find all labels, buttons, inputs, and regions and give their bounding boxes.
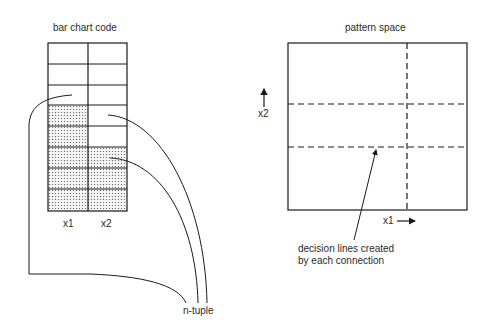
- pattern-space-title: pattern space: [345, 22, 406, 34]
- annotation-line-1: decision lines created: [298, 243, 394, 255]
- diagram-canvas: [0, 0, 494, 335]
- bar-chart-grid: [48, 43, 127, 211]
- annotation-line-2: by each connection: [298, 255, 384, 267]
- column-label-x2: x2: [101, 218, 112, 230]
- shaded-cells-x1: [48, 105, 88, 211]
- annotation-arrow-icon: [354, 150, 376, 240]
- n-tuple-label: n-tuple: [183, 305, 214, 317]
- x-axis-label: x1: [383, 215, 394, 227]
- shaded-cells-x2: [88, 147, 127, 211]
- y-axis-label: x2: [258, 108, 269, 120]
- pattern-space-plot: [288, 43, 467, 210]
- bar-chart-title: bar chart code: [53, 22, 117, 34]
- column-label-x1: x1: [63, 218, 74, 230]
